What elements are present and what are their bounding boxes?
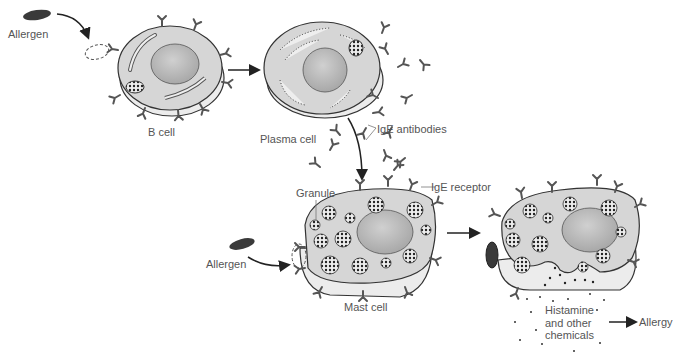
label-histamine-line3: chemicals — [545, 329, 594, 341]
label-allergen-bottom: Allergen — [206, 258, 246, 270]
arrow-plasma-to-mast — [348, 118, 362, 178]
degranulating-mast-cell — [486, 175, 646, 299]
allergy-diagram: Allergen B cell Plasma cell IgE antibodi… — [0, 0, 678, 355]
label-plasma-cell: Plasma cell — [260, 133, 316, 145]
label-ige-antibodies: IgE antibodies — [377, 123, 447, 135]
label-histamine-line2: and other — [545, 317, 591, 329]
label-histamine-line1: Histamine — [545, 304, 594, 316]
arrow-allergen-to-mast — [248, 257, 288, 266]
b-cell — [107, 16, 232, 120]
diagram-canvas — [0, 0, 678, 355]
plasma-cell — [264, 22, 383, 118]
label-granule: Granule — [296, 187, 335, 199]
label-allergen-top: Allergen — [8, 28, 48, 40]
label-b-cell: B cell — [148, 126, 175, 138]
label-ige-receptor: IgE receptor — [431, 181, 491, 193]
label-allergy: Allergy — [639, 316, 673, 328]
allergen-bottom-icon — [228, 236, 256, 252]
arrow-allergen-to-bcell — [57, 14, 88, 37]
label-mast-cell: Mast cell — [344, 301, 387, 313]
allergen-top-icon — [22, 8, 51, 22]
